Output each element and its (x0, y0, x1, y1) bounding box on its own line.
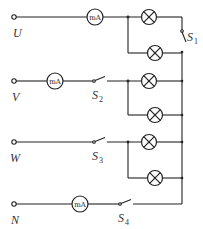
switch-s1 (181, 30, 186, 42)
terminal-u (12, 15, 16, 19)
label-s4: S (118, 211, 124, 225)
svg-text:2: 2 (99, 95, 103, 104)
label-n: N (10, 213, 20, 227)
lamp-w1 (142, 135, 157, 150)
terminal-v (12, 79, 16, 83)
circuit-diagram: mA U S 1 (0, 0, 203, 229)
svg-text:mA: mA (74, 201, 87, 209)
switch-s3 (93, 138, 105, 144)
line-u: mA U S 1 (12, 9, 198, 204)
milliammeter-n: mA (72, 196, 88, 212)
label-s3: S (92, 149, 98, 163)
milliammeter-u: mA (87, 9, 103, 25)
line-n: mA N S 4 (10, 196, 182, 227)
svg-text:mA: mA (49, 78, 62, 86)
svg-text:3: 3 (99, 156, 103, 165)
lamp-u2 (148, 46, 163, 61)
milliammeter-v: mA (47, 73, 63, 89)
switch-s4 (119, 200, 131, 206)
label-w: W (10, 151, 21, 165)
switch-s2 (93, 77, 105, 83)
label-s2: S (92, 88, 98, 102)
svg-text:4: 4 (125, 218, 129, 227)
line-w: W S 3 (10, 135, 183, 186)
lamp-v1 (142, 74, 157, 89)
label-u: U (13, 26, 23, 40)
svg-text:mA: mA (89, 14, 102, 22)
label-v: V (12, 90, 21, 104)
line-v: mA V S 2 (12, 73, 184, 123)
lamp-u1 (142, 10, 157, 25)
svg-text:1: 1 (194, 37, 198, 46)
terminal-w (12, 140, 16, 144)
terminal-n (12, 202, 16, 206)
lamp-v2 (148, 108, 163, 123)
lamp-w2 (148, 171, 163, 186)
label-s1: S (187, 30, 193, 44)
